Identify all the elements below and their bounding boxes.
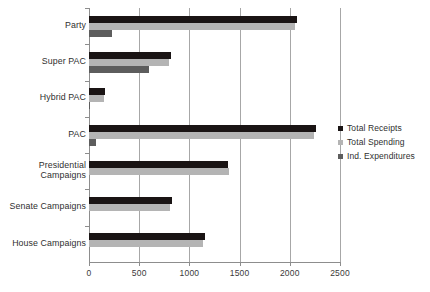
x-tick-label: 1500 [230,268,250,278]
x-tick-label: 0 [87,268,92,278]
bar [89,16,297,23]
bar [89,66,149,73]
x-tick-mark [89,262,90,266]
category-label: Super PAC [42,56,86,67]
category-label: Party [65,20,86,31]
legend-item[interactable]: Total Receipts [338,121,415,135]
bar [89,30,112,37]
bar [89,102,90,109]
legend-swatch-icon [338,154,343,159]
x-axis-line [89,262,341,263]
bar-chart: 05001000150020002500 PartySuper PACHybri… [0,0,430,292]
x-tick-mark [290,262,291,266]
x-tick-label: 2500 [330,268,350,278]
category-label: Senate Campaigns [10,201,86,212]
category-label: House Campaigns [12,238,86,249]
legend-label: Ind. Expenditures [347,151,415,161]
x-tick-mark [340,262,341,266]
bar [89,233,205,240]
bar [89,132,314,139]
chart-legend: Total ReceiptsTotal SpendingInd. Expendi… [338,121,415,163]
bar [89,23,295,30]
x-tick-mark [240,262,241,266]
category-label: Presidential Campaigns [39,160,86,181]
bar [89,240,203,247]
bar [89,161,228,168]
x-tick-label: 1000 [180,268,200,278]
legend-item[interactable]: Total Spending [338,135,415,149]
category-label: Hybrid PAC [40,92,86,103]
bar [89,52,171,59]
x-tick-mark [189,262,190,266]
x-tick-mark [139,262,140,266]
legend-swatch-icon [338,140,343,145]
plot-area [89,8,340,262]
legend-swatch-icon [338,126,343,131]
bar [89,95,104,102]
category-label: PAC [68,129,86,140]
x-tick-label: 500 [132,268,147,278]
legend-label: Total Receipts [347,123,402,133]
legend-label: Total Spending [347,137,405,147]
legend-item[interactable]: Ind. Expenditures [338,149,415,163]
bar [89,59,169,66]
x-tick-label: 2000 [280,268,300,278]
bar [89,204,170,211]
bar [89,88,105,95]
bar [89,197,172,204]
bar [89,139,96,146]
bar [89,168,229,175]
bar [89,125,316,132]
